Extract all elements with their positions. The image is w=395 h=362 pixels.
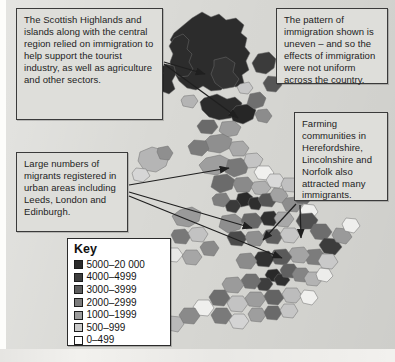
legend-swatch	[74, 336, 83, 345]
legend-row: 0–499	[74, 334, 165, 347]
legend-label: 5000–20 000	[87, 260, 145, 270]
legend-row: 3000–3999	[74, 284, 165, 297]
legend-swatch	[74, 323, 83, 332]
legend-swatch	[74, 311, 83, 320]
legend-label: 500–999	[87, 323, 126, 333]
legend-swatch	[74, 273, 83, 282]
legend-row: 500–999	[74, 321, 165, 334]
legend-row: 5000–20 000	[74, 259, 165, 272]
legend-label: 3000–3999	[87, 285, 137, 295]
legend-swatch	[74, 260, 83, 269]
legend-row: 4000–4999	[74, 271, 165, 284]
legend-row: 1000–1999	[74, 309, 165, 322]
legend-label: 1000–1999	[87, 310, 137, 320]
annotation-scotland: The Scottish Highlands and islands along…	[16, 8, 163, 120]
legend-label: 4000–4999	[87, 272, 137, 282]
legend-row: 2000–2999	[74, 296, 165, 309]
figure-page: The Scottish Highlands and islands along…	[0, 0, 395, 362]
legend-label: 2000–2999	[87, 298, 137, 308]
legend-swatch	[74, 285, 83, 294]
annotation-farming: Farming communities in Herefordshire, Li…	[294, 112, 388, 201]
legend-swatch	[74, 298, 83, 307]
annotation-pattern: The pattern of immigration shown is unev…	[276, 8, 388, 84]
annotation-urban: Large numbers of migrants registered in …	[16, 152, 128, 232]
page-margin-noise	[0, 349, 395, 362]
legend-title: Key	[74, 243, 165, 256]
map-legend: Key 5000–20 000 4000–4999 3000–3999 2000…	[67, 238, 171, 346]
legend-label: 0–499	[87, 335, 115, 345]
